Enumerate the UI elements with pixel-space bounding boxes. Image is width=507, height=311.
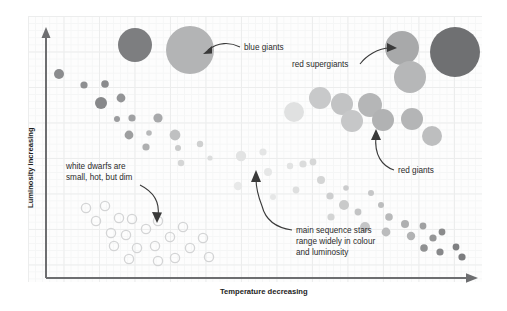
star-marker xyxy=(343,185,349,191)
star-marker xyxy=(178,160,184,166)
y-axis-arrowhead xyxy=(42,27,51,38)
annotation-main-sequence-arrowhead xyxy=(251,170,261,182)
annotation-red-supergiants: red supergiants xyxy=(292,43,397,69)
star-marker xyxy=(125,131,134,140)
star-marker xyxy=(378,202,384,208)
star-marker xyxy=(204,252,213,261)
annotation-blue-giants-label: blue giants xyxy=(244,43,284,52)
x-axis-arrowhead xyxy=(466,273,478,283)
star-marker xyxy=(372,109,394,131)
star-marker xyxy=(420,223,427,230)
star-marker xyxy=(121,230,130,239)
star-marker xyxy=(236,151,246,161)
star-marker xyxy=(382,228,391,237)
star-marker xyxy=(128,114,135,121)
star-marker xyxy=(170,130,181,141)
star-marker xyxy=(445,256,451,262)
annotation-white-dwarfs-label: white dwarfs are small, hot, but dim xyxy=(65,162,133,182)
star-marker xyxy=(114,213,123,222)
annotation-blue-giants: blue giants xyxy=(203,43,284,54)
star-marker xyxy=(91,216,100,225)
star-marker xyxy=(394,61,426,93)
star-marker xyxy=(109,241,118,250)
star-marker xyxy=(185,243,194,252)
star-markers-layer xyxy=(54,26,480,266)
hr-diagram: Luminosity increasing Temperature decrea… xyxy=(0,0,507,311)
star-group-red-supergiants xyxy=(385,27,480,93)
star-marker xyxy=(453,244,460,251)
star-marker xyxy=(106,228,115,237)
star-group-red-giants xyxy=(284,87,442,146)
star-marker xyxy=(127,214,136,223)
star-marker xyxy=(118,28,152,62)
star-marker xyxy=(326,192,333,199)
star-group-white-dwarfs xyxy=(81,201,213,265)
star-marker xyxy=(100,201,109,210)
annotation-main-sequence-label: main sequence stars range widely in colo… xyxy=(296,226,377,257)
star-marker xyxy=(259,148,266,155)
chart-canvas: Luminosity increasing Temperature decrea… xyxy=(0,0,507,311)
star-marker xyxy=(436,248,443,255)
star-marker xyxy=(207,155,212,160)
star-marker xyxy=(439,229,446,236)
star-marker xyxy=(339,200,349,210)
star-marker xyxy=(165,232,174,241)
star-marker xyxy=(175,145,181,151)
star-marker xyxy=(234,182,242,190)
star-marker xyxy=(368,190,374,196)
annotation-white-dwarfs-leader xyxy=(140,185,158,216)
star-marker xyxy=(420,244,428,252)
star-marker xyxy=(407,232,415,240)
star-marker xyxy=(299,160,306,167)
star-marker xyxy=(422,126,442,146)
star-marker xyxy=(310,159,317,166)
star-marker xyxy=(458,253,465,260)
star-marker xyxy=(146,130,152,136)
star-marker xyxy=(142,143,149,150)
star-marker xyxy=(430,27,480,77)
star-marker xyxy=(197,141,203,147)
star-marker xyxy=(284,102,304,122)
star-marker xyxy=(153,113,162,122)
star-marker xyxy=(101,80,109,88)
star-marker xyxy=(264,168,272,176)
star-marker xyxy=(355,209,362,216)
star-marker xyxy=(124,254,133,263)
annotation-red-giants-arrowhead xyxy=(371,129,381,140)
star-marker xyxy=(429,234,436,241)
star-marker xyxy=(341,110,363,132)
star-marker xyxy=(54,69,64,79)
star-marker xyxy=(327,213,334,220)
annotation-white-dwarfs: white dwarfs are small, hot, but dim xyxy=(65,162,162,223)
x-axis-label: Temperature decreasing xyxy=(220,287,308,296)
star-marker xyxy=(198,233,207,242)
star-marker xyxy=(81,203,90,212)
star-marker xyxy=(141,224,150,233)
star-marker xyxy=(170,253,179,262)
star-marker xyxy=(95,97,107,109)
annotation-red-giants-label: red giants xyxy=(398,166,434,175)
star-marker xyxy=(287,163,293,169)
star-marker xyxy=(309,87,331,109)
star-marker xyxy=(401,220,409,228)
annotation-main-sequence-leader xyxy=(256,178,292,230)
star-marker xyxy=(153,256,162,265)
star-marker xyxy=(385,213,393,221)
star-marker xyxy=(150,241,159,250)
y-axis-label: Luminosity increasing xyxy=(26,127,35,208)
star-marker xyxy=(132,243,141,252)
annotation-red-giants-leader xyxy=(376,136,394,170)
star-marker xyxy=(293,187,300,194)
annotation-red-supergiants-label: red supergiants xyxy=(292,60,348,69)
star-marker xyxy=(166,26,214,74)
star-marker xyxy=(270,194,276,200)
star-marker xyxy=(117,94,126,103)
star-marker xyxy=(178,222,187,231)
star-marker xyxy=(80,81,87,88)
star-marker xyxy=(317,176,325,184)
star-marker xyxy=(401,108,423,130)
star-marker xyxy=(114,116,120,122)
star-group-blue-giants xyxy=(118,26,214,74)
